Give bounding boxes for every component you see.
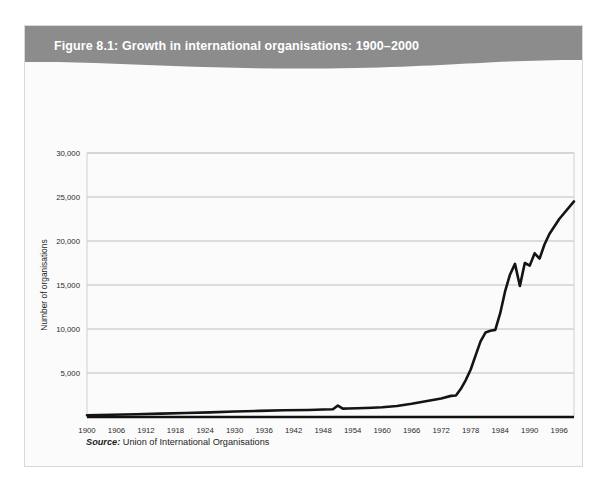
x-tick-label: 1954: [344, 426, 362, 435]
source-text: Union of International Organisations: [120, 437, 269, 447]
figure-title: Figure 8.1: Growth in international orga…: [54, 39, 419, 53]
y-tick-label: 5,000: [60, 369, 80, 378]
x-tick-label: 1984: [492, 426, 510, 435]
y-tick-label: 15,000: [56, 281, 81, 290]
source-label: Source:: [86, 437, 120, 447]
y-tick-label: 20,000: [56, 237, 81, 246]
x-tick-label: 1948: [314, 426, 331, 435]
x-tick-label: 1978: [462, 426, 479, 435]
x-tick-label: 1972: [433, 426, 450, 435]
x-tick-label: 1960: [373, 426, 391, 435]
data-series-line: [87, 201, 574, 415]
y-tick-label: 25,000: [56, 193, 81, 202]
x-tick-label: 1966: [403, 426, 420, 435]
y-tick-labels-group: 5,00010,00015,00020,00025,00030,000: [56, 149, 81, 378]
x-tick-label: 1936: [255, 426, 272, 435]
x-tick-label: 1942: [285, 426, 302, 435]
x-tick-labels-group: 1900190619121918192419301936194219481954…: [78, 426, 568, 435]
x-tick-label: 1918: [167, 426, 184, 435]
x-tick-label: 1912: [137, 426, 154, 435]
x-tick-label: 1990: [521, 426, 539, 435]
x-tick-label: 1906: [108, 426, 125, 435]
x-tick-label: 1900: [78, 426, 96, 435]
y-tick-label: 30,000: [56, 149, 81, 158]
source-note: Source: Union of International Organisat…: [86, 437, 269, 447]
x-tick-label: 1930: [226, 426, 244, 435]
x-tick-label: 1924: [196, 426, 214, 435]
chart-plot-area: 5,00010,00015,00020,00025,00030,000 1900…: [25, 78, 582, 466]
y-tick-label: 10,000: [56, 325, 81, 334]
figure-container: Figure 8.1: Growth in international orga…: [24, 25, 583, 467]
gridlines-group: [87, 153, 574, 373]
x-tick-label: 1996: [551, 426, 568, 435]
y-axis-title: Number of organisations: [39, 239, 49, 330]
